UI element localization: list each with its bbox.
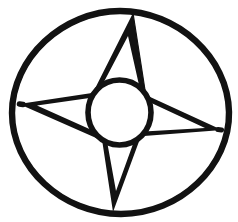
- star-point-east-apex-join: [218, 130, 222, 131]
- hub-circle-group: [88, 80, 151, 145]
- star-point-west-apex-join: [20, 104, 24, 105]
- compass-rose-emblem: Compass rose emblem Hand-drawn four-poin…: [0, 0, 238, 222]
- figure-root: Compass rose emblem Hand-drawn four-poin…: [0, 0, 238, 222]
